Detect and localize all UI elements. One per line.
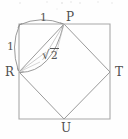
measure-label-top: 1 bbox=[40, 12, 47, 23]
vertex-label-p: P bbox=[66, 11, 74, 23]
vertex-label-u: U bbox=[61, 122, 71, 134]
inner-rotated-square bbox=[19, 24, 110, 119]
leader-stroke-r-b bbox=[19, 62, 40, 72]
radicand-two: 2 bbox=[50, 48, 59, 62]
measure-label-left: 1 bbox=[7, 41, 14, 52]
vertex-label-r: R bbox=[5, 66, 14, 78]
geometry-figure: P R T U 1 1 √2 bbox=[0, 0, 128, 139]
vertex-label-t: T bbox=[115, 66, 123, 78]
radical-sign-icon: √ bbox=[42, 48, 50, 62]
figure-canvas bbox=[0, 0, 128, 139]
measure-label-diagonal: √2 bbox=[42, 49, 59, 61]
measure-arc-left-tick-bottom bbox=[17, 68, 18, 71]
outer-square bbox=[19, 24, 110, 119]
